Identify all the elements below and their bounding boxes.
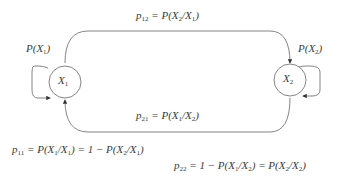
node-x1-label: X1 bbox=[58, 75, 68, 88]
node-x2-label: X2 bbox=[283, 73, 293, 86]
label-prob-x2: P(X2) bbox=[298, 43, 322, 56]
label-p21: p21 = P(X1/X2) bbox=[136, 110, 199, 123]
label-p11: p11 = P(X1/X1) = 1 − P(X2/X1) bbox=[12, 144, 144, 157]
edge-x1-to-x2 bbox=[65, 31, 290, 63]
self-loop-x1 bbox=[32, 66, 50, 98]
label-p12: p12 = P(X2/X1) bbox=[136, 10, 199, 23]
label-p22: p22 = 1 − P(X1/X2) = P(X2/X2) bbox=[174, 160, 306, 173]
label-prob-x1: P(X1) bbox=[26, 43, 50, 56]
